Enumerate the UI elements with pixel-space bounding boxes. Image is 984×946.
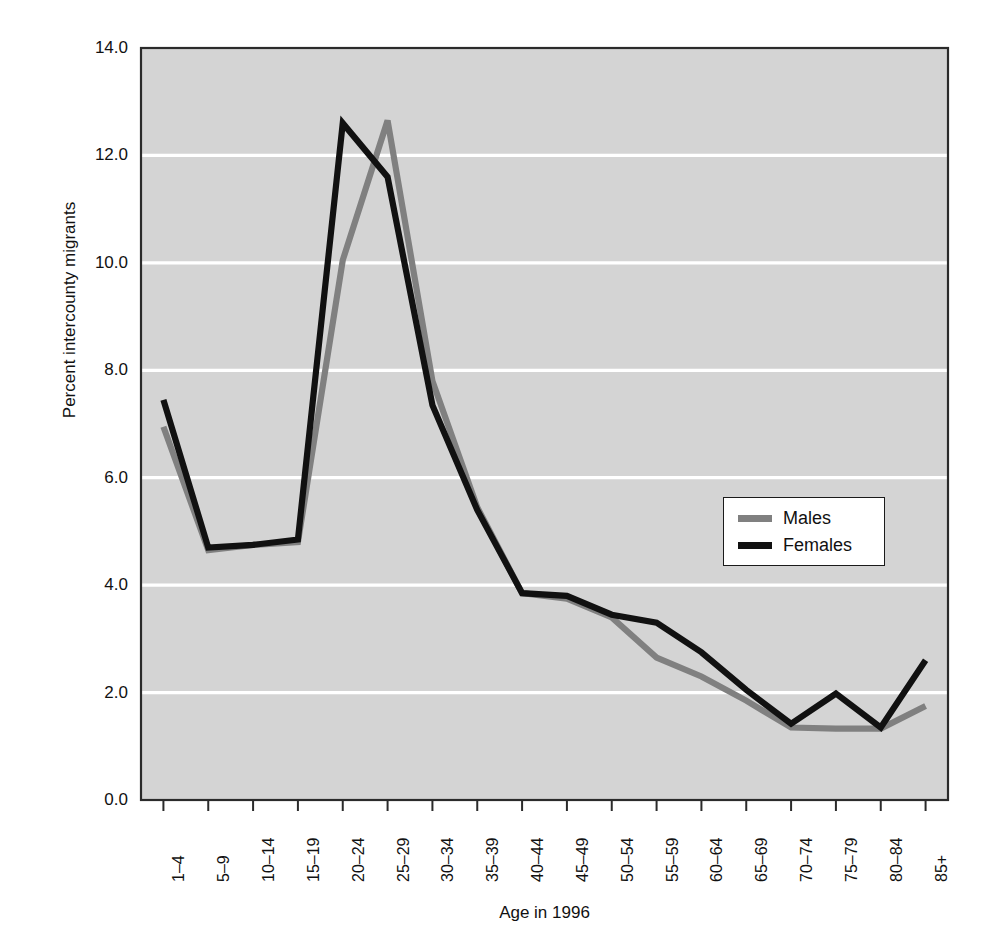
- legend-item-males: Males: [738, 505, 884, 532]
- legend-label-males: Males: [783, 508, 831, 529]
- legend-swatch-females: [738, 542, 772, 549]
- x-axis-label: Age in 1996: [141, 903, 948, 923]
- plot-background: [141, 48, 948, 800]
- chart-figure: Percent intercounty migrants 14.012.010.…: [0, 0, 984, 946]
- legend-label-females: Females: [783, 535, 852, 556]
- plot-area: [0, 0, 984, 946]
- legend-swatch-males: [738, 515, 772, 522]
- legend-item-females: Females: [738, 532, 884, 559]
- chart-legend: Males Females: [723, 497, 885, 566]
